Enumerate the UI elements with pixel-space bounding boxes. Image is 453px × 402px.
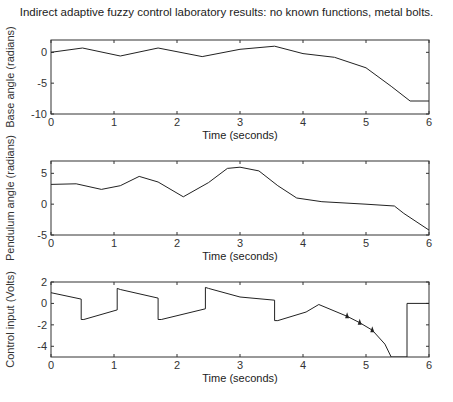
- axes-frame: [51, 161, 429, 235]
- x-tick-label: 3: [237, 237, 243, 249]
- y-tick-label: -10: [31, 108, 47, 120]
- figure: 01234560-5-10Time (seconds)Base angle (r…: [0, 0, 453, 402]
- y-tick-label: 0: [41, 198, 47, 210]
- x-tick-label: 1: [111, 359, 117, 371]
- pendulum-angle-plot: 012345650-5Time (seconds)Pendulum angle …: [4, 135, 432, 262]
- x-tick-label: 4: [300, 237, 306, 249]
- y-tick-label: 2: [41, 276, 47, 288]
- control-input-plot: 012345620-2-4Time (seconds)Control input…: [4, 271, 432, 384]
- data-series-line: [51, 287, 429, 357]
- x-tick-label: 3: [237, 359, 243, 371]
- x-tick-label: 5: [363, 116, 369, 128]
- y-tick-label: -4: [37, 340, 47, 352]
- data-series-line: [51, 167, 429, 230]
- x-tick-label: 0: [48, 237, 54, 249]
- y-tick-label: -5: [37, 77, 47, 89]
- x-tick-label: 3: [237, 116, 243, 128]
- y-axis-label: Pendulum angle (radians): [4, 135, 16, 261]
- y-axis-label: Base angle (radians): [4, 26, 16, 128]
- x-tick-label: 6: [426, 116, 432, 128]
- x-tick-label: 0: [48, 116, 54, 128]
- axes-frame: [51, 282, 429, 357]
- y-tick-label: 0: [41, 46, 47, 58]
- y-tick-label: -2: [37, 319, 47, 331]
- x-tick-label: 5: [363, 237, 369, 249]
- x-axis-label: Time (seconds): [202, 372, 277, 384]
- axes-frame: [51, 40, 429, 114]
- y-axis-label: Control input (Volts): [4, 271, 16, 368]
- x-axis-label: Time (seconds): [202, 129, 277, 141]
- y-tick-label: 0: [41, 297, 47, 309]
- y-tick-label: -5: [37, 229, 47, 241]
- x-tick-label: 5: [363, 359, 369, 371]
- x-tick-label: 4: [300, 359, 306, 371]
- x-tick-label: 2: [174, 237, 180, 249]
- x-tick-label: 1: [111, 237, 117, 249]
- x-axis-label: Time (seconds): [202, 250, 277, 262]
- data-series-line: [51, 46, 429, 101]
- base-angle-plot: 01234560-5-10Time (seconds)Base angle (r…: [4, 26, 432, 141]
- x-tick-label: 6: [426, 237, 432, 249]
- x-tick-label: 0: [48, 359, 54, 371]
- x-tick-label: 2: [174, 359, 180, 371]
- x-tick-label: 4: [300, 116, 306, 128]
- x-tick-label: 2: [174, 116, 180, 128]
- x-tick-label: 1: [111, 116, 117, 128]
- y-tick-label: 5: [41, 167, 47, 179]
- x-tick-label: 6: [426, 359, 432, 371]
